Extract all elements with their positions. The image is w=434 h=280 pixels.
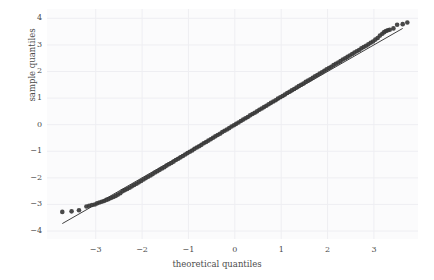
plot-area <box>47 9 418 239</box>
plot-canvas <box>47 9 418 239</box>
y-axis-label: sample quantiles <box>27 0 37 145</box>
x-tick-label: 2 <box>325 246 330 254</box>
qq-plot-figure: −4−3−2−101234 −3−2−10123 theoretical qua… <box>0 0 434 280</box>
x-tick-label: 1 <box>279 246 284 254</box>
y-tick-label: −1 <box>20 147 42 155</box>
x-axis-label: theoretical quantiles <box>0 259 434 269</box>
x-tick-label: −3 <box>90 246 102 254</box>
x-tick-label: 3 <box>371 246 376 254</box>
x-tick-label: −1 <box>183 246 195 254</box>
y-tick-label: −2 <box>20 174 42 182</box>
x-tick-label: −2 <box>136 246 148 254</box>
x-tick-label: 0 <box>232 246 237 254</box>
y-tick-label: −4 <box>20 227 42 235</box>
y-tick-label: −3 <box>20 200 42 208</box>
